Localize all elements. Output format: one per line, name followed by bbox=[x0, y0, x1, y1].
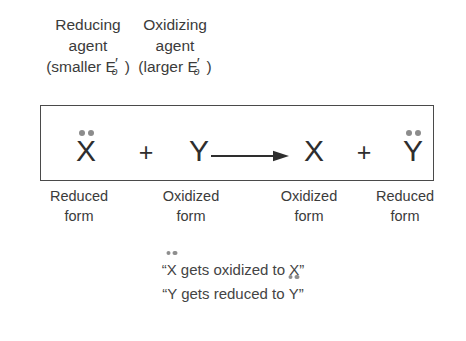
statement-subject-symbol: Y bbox=[167, 285, 177, 302]
oxidizing-agent-label: Oxidizing agent (larger E′o) bbox=[110, 14, 240, 79]
statement-subject-symbol: X bbox=[167, 261, 177, 278]
form-label-reactant-x: Reduced form bbox=[24, 186, 134, 226]
statement-oxidation: “X gets oxidized to X” bbox=[0, 258, 466, 282]
product-plus-operator: + bbox=[349, 140, 379, 165]
electron-dot bbox=[173, 251, 178, 256]
reducing-paren-open: (smaller bbox=[46, 58, 105, 75]
quote-close: ” bbox=[299, 285, 304, 302]
electron-dot bbox=[295, 275, 300, 280]
statement-object-symbol: Y bbox=[289, 285, 299, 302]
form-label-line1: Reduced bbox=[350, 186, 460, 206]
oxidizing-agent-line2: agent bbox=[110, 35, 240, 56]
electron-dot bbox=[166, 251, 171, 256]
form-labels-row: Reduced form Oxidized form Oxidized form… bbox=[0, 186, 466, 232]
oxidizing-agent-line1: Oxidizing bbox=[110, 14, 240, 35]
form-label-line2: form bbox=[24, 206, 134, 226]
product-y-symbol: Y bbox=[393, 136, 433, 166]
statement-reduction: “Y gets reduced to Y” bbox=[0, 282, 466, 306]
form-label-product-y: Reduced form bbox=[350, 186, 460, 226]
statement-middle-text: gets reduced to bbox=[177, 285, 289, 302]
reaction-equation-box: X + Y X + Y bbox=[40, 105, 434, 181]
electron-dot bbox=[288, 275, 293, 280]
form-label-line2: form bbox=[350, 206, 460, 226]
form-label-line2: form bbox=[254, 206, 364, 226]
statement-middle-text: gets oxidized to bbox=[177, 261, 290, 278]
statement-subject-x: X bbox=[167, 258, 177, 282]
redox-potential-symbol: E′o bbox=[187, 56, 206, 79]
oxidizing-agent-potential: (larger E′o) bbox=[110, 56, 240, 79]
agent-labels-row: Reducing agent (smaller E′o) Oxidizing a… bbox=[0, 14, 466, 102]
potential-symbol-subscript: o bbox=[194, 65, 200, 77]
oxidizing-paren-close: ) bbox=[207, 58, 212, 75]
form-label-reactant-y: Oxidized form bbox=[136, 186, 246, 226]
form-label-line1: Oxidized bbox=[254, 186, 364, 206]
summary-statements: “X gets oxidized to X” “Y gets reduced t… bbox=[0, 258, 466, 306]
oxidizing-paren-open: (larger bbox=[138, 58, 187, 75]
form-label-line2: form bbox=[136, 206, 246, 226]
statement-object-y: Y bbox=[289, 282, 299, 306]
reaction-arrow-icon bbox=[211, 150, 289, 162]
form-label-line1: Reduced bbox=[24, 186, 134, 206]
product-x-symbol: X bbox=[294, 136, 334, 166]
reactant-x-symbol: X bbox=[66, 136, 106, 166]
form-label-product-x: Oxidized form bbox=[254, 186, 364, 226]
reactant-plus-operator: + bbox=[131, 140, 161, 165]
electron-pair-dots-statement-subject bbox=[165, 250, 178, 255]
electron-pair-dots-statement-object bbox=[287, 274, 300, 279]
form-label-line1: Oxidized bbox=[136, 186, 246, 206]
